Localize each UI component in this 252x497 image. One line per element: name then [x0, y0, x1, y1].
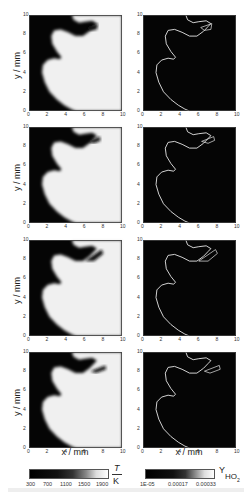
- y-tick: 4: [23, 182, 26, 187]
- x-tick: 4: [64, 112, 67, 117]
- y-tick: 4: [137, 407, 140, 412]
- ho2-colorbar: [145, 469, 215, 479]
- y-tick: 6: [137, 275, 140, 280]
- y-tick: 4: [137, 70, 140, 75]
- y-axis-label: y / mm: [12, 277, 22, 304]
- x-tick: 10: [120, 224, 126, 229]
- x-tick: 6: [83, 112, 86, 117]
- x-tick: 2: [46, 112, 49, 117]
- y-tick: 2: [137, 426, 140, 431]
- y-tick: 4: [137, 295, 140, 300]
- y-tick: 6: [137, 50, 140, 55]
- x-tick: 8: [101, 112, 104, 117]
- x-tick: 10: [120, 337, 126, 342]
- temperature-panel-2: [29, 127, 122, 223]
- temperature-tick-0: 300: [26, 481, 35, 487]
- temperature-tick-3: 1500: [78, 481, 90, 487]
- y-tick: 4: [23, 70, 26, 75]
- x-tick: 2: [160, 112, 163, 117]
- x-tick: 8: [215, 112, 218, 117]
- x-tick: 4: [178, 337, 181, 342]
- x-tick: 10: [234, 224, 240, 229]
- x-tick: 10: [234, 449, 240, 454]
- y-tick: 6: [137, 387, 140, 392]
- y-tick: 8: [23, 256, 26, 261]
- x-tick: 0: [27, 224, 30, 229]
- temperature-panel-4: [29, 352, 122, 448]
- y-tick: 0: [137, 445, 140, 450]
- y-tick: 0: [23, 220, 26, 225]
- y-tick: 2: [137, 314, 140, 319]
- x-tick: 2: [160, 449, 163, 454]
- y-tick: 2: [137, 89, 140, 94]
- y-axis-label: y / mm: [12, 52, 22, 79]
- y-tick: 0: [23, 333, 26, 338]
- y-tick: 6: [137, 162, 140, 167]
- ho2-tick-1: 0.00017: [168, 481, 188, 487]
- x-tick: 0: [141, 224, 144, 229]
- y-tick: 6: [23, 387, 26, 392]
- x-tick: 6: [83, 337, 86, 342]
- y-tick: 6: [23, 162, 26, 167]
- temperature-tick-4: 1900: [96, 481, 108, 487]
- x-tick: 4: [178, 224, 181, 229]
- y-tick: 4: [23, 407, 26, 412]
- x-tick: 8: [215, 224, 218, 229]
- y-tick: 8: [23, 31, 26, 36]
- y-tick: 10: [23, 237, 29, 242]
- x-tick: 8: [101, 337, 104, 342]
- temperature-panel-3: [29, 240, 122, 336]
- y-tick: 6: [23, 275, 26, 280]
- x-tick: 0: [141, 112, 144, 117]
- y-tick: 2: [23, 89, 26, 94]
- temperature-colorbar: [29, 469, 109, 479]
- temperature-tick-1: 700: [43, 481, 52, 487]
- x-tick: 0: [27, 112, 30, 117]
- x-tick: 6: [197, 112, 200, 117]
- x-tick: 0: [141, 449, 144, 454]
- temperature-unit-numerator: T: [114, 463, 120, 473]
- y-tick: 8: [23, 368, 26, 373]
- y-tick: 2: [137, 201, 140, 206]
- y-tick: 8: [23, 143, 26, 148]
- y-tick: 2: [23, 201, 26, 206]
- x-tick: 8: [215, 449, 218, 454]
- ho2-panel-3: [143, 240, 236, 336]
- y-tick: 10: [23, 12, 29, 17]
- x-tick: 6: [197, 337, 200, 342]
- x-tick: 4: [64, 337, 67, 342]
- x-tick: 6: [197, 224, 200, 229]
- y-axis-label: y / mm: [12, 164, 22, 191]
- y-tick: 4: [23, 295, 26, 300]
- y-tick: 8: [137, 31, 140, 36]
- y-tick: 10: [137, 349, 143, 354]
- ho2-panel-1: [143, 15, 236, 111]
- y-tick: 8: [137, 143, 140, 148]
- x-tick: 10: [120, 112, 126, 117]
- x-tick: 4: [178, 112, 181, 117]
- y-axis-label: y / mm: [12, 389, 22, 416]
- y-tick: 10: [137, 12, 143, 17]
- x-tick: 10: [234, 112, 240, 117]
- x-axis-label: x / mm: [62, 447, 89, 457]
- figure-caption: [8, 488, 244, 492]
- x-tick: 10: [234, 337, 240, 342]
- y-tick: 10: [137, 124, 143, 129]
- y-tick: 6: [23, 50, 26, 55]
- x-tick: 8: [101, 224, 104, 229]
- x-tick: 0: [141, 337, 144, 342]
- y-tick: 2: [23, 314, 26, 319]
- y-tick: 0: [23, 108, 26, 113]
- y-tick: 0: [137, 220, 140, 225]
- y-tick: 0: [137, 108, 140, 113]
- x-tick: 2: [46, 337, 49, 342]
- x-tick: 10: [120, 449, 126, 454]
- x-tick: 0: [27, 337, 30, 342]
- x-tick: 2: [46, 449, 49, 454]
- x-tick: 2: [160, 224, 163, 229]
- y-tick: 10: [23, 124, 29, 129]
- temperature-panel-1: [29, 15, 122, 111]
- ho2-panel-4: [143, 352, 236, 448]
- ho2-tick-2: 0.00033: [196, 481, 216, 487]
- x-tick: 2: [46, 224, 49, 229]
